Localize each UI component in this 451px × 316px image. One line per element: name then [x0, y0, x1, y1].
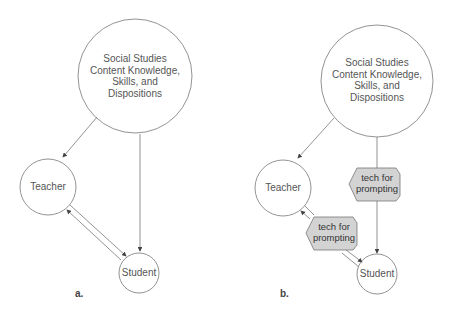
student-label-a: Student: [109, 267, 169, 279]
mediator-label-2: tech for prompting: [309, 222, 359, 244]
mediator-line: prompting: [352, 184, 402, 195]
panel-label-a: a.: [75, 288, 83, 299]
content-line: Skills, and: [322, 80, 432, 92]
edge-content-teacher-a: [63, 117, 97, 157]
edge-content-teacher-b: [298, 118, 334, 158]
content-line: Social Studies: [322, 57, 432, 69]
edge-student-teacher-a: [67, 210, 121, 260]
content-line: Content Knowledge,: [322, 69, 432, 81]
content-line: Social Studies: [80, 53, 190, 65]
student-label-b: Student: [347, 268, 407, 280]
teacher-label-a: Teacher: [18, 181, 78, 193]
content-line: Dispositions: [322, 92, 432, 104]
edge-teacher-student-a: [70, 205, 126, 256]
diagram-canvas: Social Studies Content Knowledge, Skills…: [0, 0, 451, 316]
content-line: Content Knowledge,: [80, 65, 190, 77]
content-line: Skills, and: [80, 76, 190, 88]
teacher-label-b: Teacher: [253, 182, 313, 194]
edge-teacher-mediator-b: [305, 206, 314, 215]
content-label-b: Social Studies Content Knowledge, Skills…: [322, 57, 432, 103]
edge-mediator-student-b2: [346, 250, 362, 262]
mediator-line: prompting: [309, 233, 359, 244]
edge-student-mediator-b: [342, 253, 359, 267]
content-line: Dispositions: [80, 88, 190, 100]
panel-label-b: b.: [280, 288, 289, 299]
edge-mediator-teacher-b: [301, 211, 310, 219]
mediator-label-1: tech for prompting: [352, 173, 402, 195]
content-label-a: Social Studies Content Knowledge, Skills…: [80, 53, 190, 99]
